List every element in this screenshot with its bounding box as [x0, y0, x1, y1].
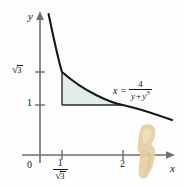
x-tick-label-inv-sqrt3: 1 √3 [53, 158, 68, 181]
fraction-one-over-sqrt3: 1 √3 [53, 158, 68, 181]
fraction-denominator: √3 [53, 170, 68, 182]
sqrt-radicand: 3 [17, 65, 23, 75]
y-axis-label: y [28, 11, 33, 22]
y-tick-label-one: 1 [27, 98, 32, 108]
x-tick-label-two: 2 [120, 159, 125, 169]
sqrt-radicand: 3 [60, 171, 66, 181]
sqrt-radical: √3 [55, 170, 66, 182]
denominator-exponent-three: 3 [146, 89, 150, 97]
curve-equation-label: x = 4 y+y3 [113, 80, 152, 102]
equation-denominator: y+y3 [129, 90, 152, 101]
equation-fraction: 4 y+y3 [129, 80, 152, 102]
y-axis-arrowhead [36, 11, 44, 20]
equation-variable: x [113, 85, 117, 96]
origin-label: 0 [27, 160, 32, 170]
y-tick-label-sqrt3: √3 [12, 64, 23, 75]
equation-equals-sign: = [119, 85, 127, 96]
figure-canvas: y x 0 √3 1 1 √3 2 x = 4 y+y3 [0, 0, 184, 186]
x-axis-label: x [170, 163, 175, 174]
x-axis-arrowhead [166, 151, 175, 159]
sqrt-radical: √3 [12, 64, 23, 75]
